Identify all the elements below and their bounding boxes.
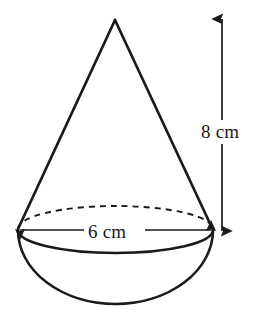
- height-dimension-label: 8 cm: [198, 120, 242, 144]
- diameter-dimension-label: 6 cm: [84, 220, 130, 244]
- cone-left-slant: [18, 20, 115, 229]
- figure-canvas: [0, 0, 268, 330]
- geometry-figure: 8 cm 6 cm: [0, 0, 268, 330]
